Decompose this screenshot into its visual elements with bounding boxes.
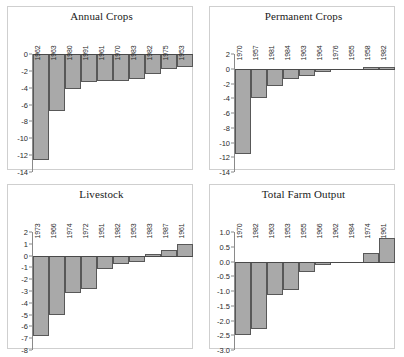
bar-cell: [177, 232, 193, 350]
bar-cell: [347, 54, 363, 172]
x-axis-tick-label: 1953: [129, 202, 145, 232]
x-axis-tick-label: 1955: [347, 24, 363, 54]
y-axis-tick-label: -2: [21, 66, 28, 75]
bar-cell: [267, 232, 283, 350]
chart-panel-total-farm-output: Total Farm Output 1970198219631953195519…: [202, 178, 404, 357]
x-axis-label-spacer: [6, 202, 33, 232]
y-axis-tick-label: -12: [17, 151, 28, 160]
x-axis-tick-label: 1982: [113, 202, 129, 232]
y-axis-tick-label: -3: [21, 287, 28, 296]
plot-area: 1970198219631953195519661962198419741961…: [208, 202, 399, 350]
y-axis-tick-label: -8: [21, 117, 28, 126]
y-axis-tick-label: 0: [226, 64, 230, 73]
y-axis-tick-label: -1: [21, 263, 28, 272]
x-axis-tick-label: 1970: [235, 24, 251, 54]
bar[interactable]: [235, 262, 251, 336]
bar-cell: [315, 232, 331, 350]
bar[interactable]: [267, 262, 283, 296]
y-axis-tick-label: -2: [223, 79, 230, 88]
bar[interactable]: [267, 69, 283, 86]
bar[interactable]: [283, 69, 299, 79]
bar[interactable]: [299, 262, 315, 272]
y-axis-tick-label: -4: [223, 94, 230, 103]
zero-baseline: [33, 54, 193, 55]
y-axis-tick-label: -10: [219, 138, 230, 147]
y-axis-tick-label: -14: [219, 168, 230, 177]
bar[interactable]: [177, 244, 193, 256]
bar[interactable]: [299, 69, 315, 76]
bar[interactable]: [283, 262, 299, 291]
x-axis-tick-label: 1983: [129, 24, 145, 54]
x-axis-labels: 1970198219631953195519661962198419741961: [208, 202, 399, 232]
y-axis-tick-label: -4: [21, 83, 28, 92]
y-axis-tick-label: -10: [17, 134, 28, 143]
x-axis-tick-label: 1962: [331, 202, 347, 232]
zero-baseline: [235, 262, 395, 263]
bar[interactable]: [33, 256, 49, 336]
x-axis-tick-label: 1961: [177, 202, 193, 232]
chart-panel-annual-crops: Annual Crops 196219631980199119611970198…: [0, 0, 202, 178]
x-axis-tick-label: 1982: [145, 24, 161, 54]
zero-baseline: [33, 256, 193, 257]
bar-cell: [299, 54, 315, 172]
bar[interactable]: [49, 256, 65, 315]
bar-cell: [161, 232, 177, 350]
bar-cell: [299, 232, 315, 350]
bar-cell: [161, 54, 177, 172]
y-axis-labels: 0-2-4-6-8-10-12-14: [6, 54, 32, 172]
x-axis-tick-label: 1966: [315, 202, 331, 232]
axis-area: 1.00.50.0-0.5-1.0-1.5-2.0-2.5-3.0: [208, 232, 399, 350]
x-axis-tick-label: 1974: [65, 202, 81, 232]
bar-cell: [363, 54, 379, 172]
plot-region: [235, 54, 395, 172]
x-axis-tick-label: 1984: [283, 24, 299, 54]
panel-title: Permanent Crops: [208, 10, 399, 23]
y-axis-tick-label: 0.5: [220, 242, 230, 251]
y-axis-tick-label: -4: [21, 298, 28, 307]
bar[interactable]: [49, 54, 65, 111]
bar[interactable]: [33, 54, 49, 160]
bar[interactable]: [251, 69, 267, 99]
y-axis-tick-label: -7: [21, 334, 28, 343]
x-axis-tick-label: 1982: [251, 202, 267, 232]
x-axis-tick-label: 1991: [81, 24, 97, 54]
zero-baseline: [235, 69, 395, 70]
bar[interactable]: [81, 256, 97, 289]
x-axis-tick-label: 1953: [283, 202, 299, 232]
axis-area: 20-2-4-6-8-10-12-14: [208, 54, 399, 172]
bar[interactable]: [363, 253, 379, 262]
bar-cell: [235, 54, 251, 172]
bar-cell: [97, 54, 113, 172]
x-axis-tick-label: 1983: [145, 202, 161, 232]
bar-cell: [177, 54, 193, 172]
x-axis-tick-label: 1961: [379, 202, 395, 232]
x-axis-tick-label: 1963: [49, 24, 65, 54]
bar-cell: [129, 54, 145, 172]
x-axis-tick-label: 1957: [251, 24, 267, 54]
bar-cell: [49, 232, 65, 350]
bar[interactable]: [97, 256, 113, 269]
y-axis-tick-label: -14: [17, 168, 28, 177]
y-axis-labels: 20-2-4-6-8-10-12-14: [208, 54, 234, 172]
bar[interactable]: [251, 262, 267, 330]
bar-series: [235, 232, 395, 350]
y-axis-tick-label: -1.0: [217, 287, 230, 296]
bar[interactable]: [379, 238, 395, 262]
bar-cell: [379, 232, 395, 350]
x-axis-tick-label: 1984: [347, 202, 363, 232]
x-axis-tick-label: 1976: [331, 24, 347, 54]
x-axis-tick-label: 1980: [65, 24, 81, 54]
bar-cell: [235, 232, 251, 350]
bar[interactable]: [113, 256, 129, 264]
bar[interactable]: [235, 69, 251, 154]
x-axis-tick-label: 1962: [33, 24, 49, 54]
y-axis-tick-label: 0.0: [220, 257, 230, 266]
bar-cell: [81, 232, 97, 350]
panel-title: Annual Crops: [6, 10, 197, 23]
x-axis-label-spacer: [208, 24, 235, 54]
x-axis-tick-label: 1961: [97, 24, 113, 54]
y-axis-labels: 1.00.50.0-0.5-1.0-1.5-2.0-2.5-3.0: [208, 232, 234, 350]
y-axis-tick-label: -6: [21, 322, 28, 331]
bar[interactable]: [65, 256, 81, 294]
y-axis-tick-label: -8: [21, 346, 28, 355]
